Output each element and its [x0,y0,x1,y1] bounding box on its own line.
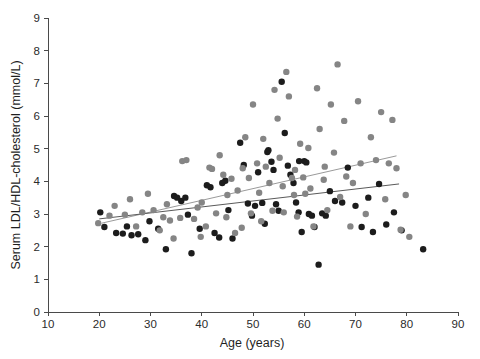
data-point [406,234,412,240]
plot-canvas: 102030405060708090 0123456789 Age (years… [0,0,480,359]
data-point [170,235,176,241]
data-point [327,188,333,194]
data-point [150,207,156,213]
data-point [266,180,272,186]
data-point [263,163,269,169]
data-point [188,250,194,256]
data-point [355,98,361,104]
y-tick-label: 5 [34,143,40,155]
data-point [177,215,183,221]
data-point [382,196,388,202]
data-point [146,218,152,224]
y-axis-label: Serum LDL/HDL-cholesterol (mmol/L) [9,60,23,269]
data-point [167,217,173,223]
data-point [120,230,126,236]
data-point [268,159,274,165]
data-point [341,118,347,124]
data-point [179,158,185,164]
data-point [128,232,134,238]
data-point [256,190,262,196]
data-point [157,227,163,233]
data-point [239,225,245,231]
data-point [293,199,299,205]
data-point [376,181,382,187]
data-point [291,192,297,198]
data-point [135,231,141,237]
data-point [383,221,389,227]
data-point [163,246,169,252]
data-point [302,191,308,197]
data-point [240,165,246,171]
data-point [260,136,266,142]
data-point [207,184,213,190]
x-tick-label: 90 [452,318,465,330]
data-point [328,101,334,107]
data-point [309,212,315,218]
data-point [285,162,291,168]
data-point [113,230,119,236]
x-tick-label: 60 [298,318,311,330]
data-point [389,117,395,123]
data-point [145,191,151,197]
data-point [269,208,275,214]
data-point [350,180,356,186]
data-point [142,237,148,243]
data-point [289,175,295,181]
data-point [315,261,321,267]
data-point [397,226,403,232]
y-tick-label: 4 [34,175,41,187]
y-tick-label: 7 [34,77,40,89]
data-point [280,183,286,189]
data-point [368,134,374,140]
data-point [286,93,292,99]
data-point [242,134,248,140]
data-point [292,167,298,173]
y-tick-label: 8 [34,45,40,57]
data-point [164,201,170,207]
data-point [255,169,261,175]
data-point [232,230,238,236]
data-point [334,61,340,67]
x-tick-label: 30 [144,318,157,330]
data-point [314,85,320,91]
data-point [296,158,302,164]
data-point [216,234,222,240]
data-point [347,223,353,229]
data-point [252,203,258,209]
data-point [279,79,285,85]
y-tick-label: 3 [34,208,40,220]
data-point [370,229,376,235]
data-point [357,160,363,166]
x-axis-label: Age (years) [220,336,285,350]
data-point [345,164,351,170]
data-point [323,212,329,218]
data-point [298,229,304,235]
data-point [281,209,287,215]
data-point [264,149,270,155]
data-point [273,201,279,207]
y-tick-label: 2 [34,241,40,253]
y-tick-label: 6 [34,110,40,122]
data-point [254,160,260,166]
data-point [274,115,280,121]
data-point [216,152,222,158]
x-tick-label: 40 [195,318,208,330]
data-point [237,140,243,146]
data-point [246,175,252,181]
data-point [310,223,316,229]
data-point [211,230,217,236]
data-point [250,101,256,107]
data-point [122,211,128,217]
data-point [160,214,166,220]
data-point [229,235,235,241]
data-point [191,216,197,222]
data-point [283,69,289,75]
data-point [305,145,311,151]
data-point [282,130,288,136]
data-point [294,213,300,219]
data-point [234,187,240,193]
data-point [197,226,203,232]
x-tick-label: 20 [93,318,106,330]
data-point [182,194,188,200]
data-point [270,167,276,173]
